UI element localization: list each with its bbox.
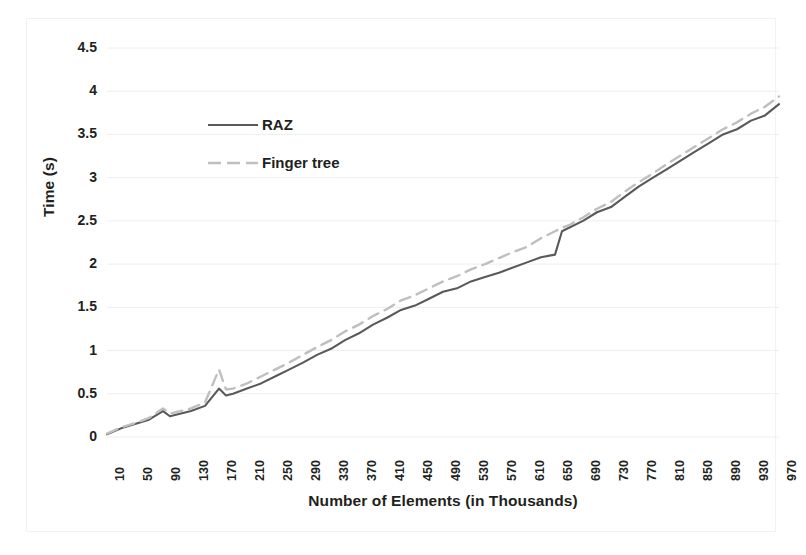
plot-area xyxy=(0,0,806,555)
series-line-raz xyxy=(107,104,779,434)
data-series-layer xyxy=(107,96,779,434)
chart-figure: Time (s) Number of Elements (in Thousand… xyxy=(0,0,806,555)
legend-label-finger-tree: Finger tree xyxy=(262,154,340,171)
legend-line-samples xyxy=(208,125,258,163)
gridlines xyxy=(107,48,779,437)
legend-label-raz: RAZ xyxy=(262,116,293,133)
series-line-finger-tree xyxy=(107,96,779,433)
